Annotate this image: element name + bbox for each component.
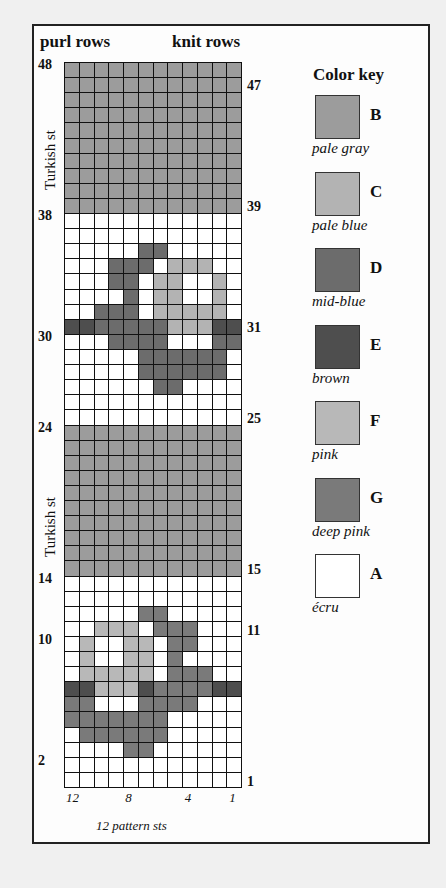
chart-cell bbox=[95, 320, 109, 334]
chart-cell bbox=[80, 365, 94, 379]
chart-cell bbox=[80, 274, 94, 288]
chart-cell bbox=[80, 637, 94, 651]
chart-cell bbox=[139, 229, 153, 243]
chart-cell bbox=[95, 93, 109, 107]
chart-cell bbox=[139, 78, 153, 92]
chart-cell bbox=[65, 380, 79, 394]
chart-cell bbox=[213, 743, 227, 757]
chart-cell bbox=[109, 335, 123, 349]
chart-cell bbox=[183, 63, 197, 77]
color-name: brown bbox=[312, 370, 350, 387]
knit-row-number: 15 bbox=[247, 563, 261, 577]
chart-cell bbox=[109, 471, 123, 485]
chart-cell bbox=[80, 441, 94, 455]
chart-cell bbox=[183, 350, 197, 364]
chart-cell bbox=[154, 139, 168, 153]
chart-cell bbox=[124, 214, 138, 228]
chart-cell bbox=[198, 426, 212, 440]
chart-cell bbox=[80, 63, 94, 77]
chart-cell bbox=[80, 108, 94, 122]
chart-cell bbox=[139, 712, 153, 726]
chart-cell bbox=[139, 274, 153, 288]
chart-cell bbox=[183, 592, 197, 606]
chart-cell bbox=[227, 773, 241, 787]
chart-cell bbox=[80, 622, 94, 636]
chart-cell bbox=[65, 169, 79, 183]
color-swatch bbox=[315, 248, 360, 292]
chart-cell bbox=[198, 728, 212, 742]
chart-cell bbox=[198, 667, 212, 681]
chart-cell bbox=[124, 743, 138, 757]
chart-cell bbox=[124, 139, 138, 153]
chart-cell bbox=[213, 244, 227, 258]
chart-cell bbox=[80, 592, 94, 606]
chart-cell bbox=[109, 697, 123, 711]
chart-cell bbox=[109, 667, 123, 681]
chart-cell bbox=[227, 637, 241, 651]
chart-cell bbox=[95, 154, 109, 168]
chart-cell bbox=[154, 546, 168, 560]
chart-cell bbox=[168, 410, 182, 424]
chart-cell bbox=[139, 667, 153, 681]
chart-cell bbox=[65, 350, 79, 364]
chart-cell bbox=[65, 682, 79, 696]
chart-cell bbox=[95, 561, 109, 575]
chart-cell bbox=[65, 607, 79, 621]
chart-cell bbox=[183, 471, 197, 485]
chart-cell bbox=[154, 78, 168, 92]
chart-cell bbox=[65, 244, 79, 258]
chart-cell bbox=[183, 244, 197, 258]
chart-cell bbox=[227, 274, 241, 288]
chart-cell bbox=[95, 471, 109, 485]
chart-cell bbox=[168, 169, 182, 183]
color-letter: B bbox=[370, 105, 381, 125]
chart-cell bbox=[65, 637, 79, 651]
chart-cell bbox=[124, 471, 138, 485]
chart-cell bbox=[95, 229, 109, 243]
chart-cell bbox=[139, 214, 153, 228]
chart-cell bbox=[95, 78, 109, 92]
chart-cell bbox=[154, 712, 168, 726]
chart-cell bbox=[65, 622, 79, 636]
chart-cell bbox=[80, 169, 94, 183]
chart-cell bbox=[80, 516, 94, 530]
chart-cell bbox=[65, 728, 79, 742]
chart-cell bbox=[154, 93, 168, 107]
chart-cell bbox=[139, 486, 153, 500]
color-letter: C bbox=[370, 182, 382, 202]
chart-cell bbox=[139, 531, 153, 545]
chart-cell bbox=[168, 712, 182, 726]
chart-cell bbox=[183, 637, 197, 651]
chart-cell bbox=[168, 516, 182, 530]
chart-cell bbox=[227, 486, 241, 500]
chart-cell bbox=[109, 244, 123, 258]
chart-cell bbox=[183, 652, 197, 666]
chart-cell bbox=[124, 712, 138, 726]
chart-cell bbox=[168, 667, 182, 681]
chart-cell bbox=[227, 456, 241, 470]
chart-cell bbox=[168, 637, 182, 651]
chart-cell bbox=[80, 471, 94, 485]
chart-cell bbox=[154, 199, 168, 213]
chart-cell bbox=[168, 274, 182, 288]
chart-cell bbox=[65, 743, 79, 757]
chart-cell bbox=[95, 365, 109, 379]
chart-cell bbox=[65, 667, 79, 681]
chart-cell bbox=[154, 622, 168, 636]
chart-cell bbox=[80, 335, 94, 349]
chart-cell bbox=[95, 728, 109, 742]
chart-cell bbox=[124, 501, 138, 515]
chart-cell bbox=[198, 184, 212, 198]
chart-cell bbox=[154, 728, 168, 742]
chart-cell bbox=[183, 697, 197, 711]
pattern-stitch-count: 12 pattern sts bbox=[96, 818, 167, 834]
chart-cell bbox=[95, 169, 109, 183]
chart-cell bbox=[95, 63, 109, 77]
chart-cell bbox=[124, 531, 138, 545]
chart-cell bbox=[168, 350, 182, 364]
chart-cell bbox=[183, 667, 197, 681]
chart-cell bbox=[139, 335, 153, 349]
chart-cell bbox=[95, 335, 109, 349]
chart-cell bbox=[213, 637, 227, 651]
chart-cell bbox=[65, 697, 79, 711]
